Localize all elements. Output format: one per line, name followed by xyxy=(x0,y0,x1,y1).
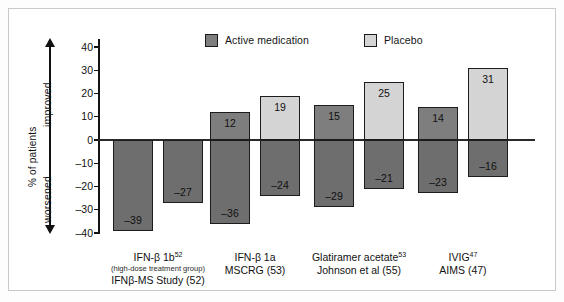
y-axis-tick-label-wrap: –30 xyxy=(53,204,93,214)
y-axis-tick-mark xyxy=(94,232,100,233)
bar-value-label: 19 xyxy=(261,102,299,113)
bar-value-label: –23 xyxy=(419,177,457,188)
bar-value-label: –16 xyxy=(469,161,507,172)
category-label-line1: IVIG47 xyxy=(383,251,543,264)
y-axis-tick-label: 0 xyxy=(63,135,93,145)
bar-value-label: 25 xyxy=(365,88,403,99)
bar-value-label: –29 xyxy=(315,191,353,202)
bar-improved: 12 xyxy=(210,112,250,140)
y-axis-tick-label: 40 xyxy=(63,42,93,52)
y-axis-tick-label: 30 xyxy=(63,65,93,75)
bar-improved: 19 xyxy=(260,96,300,140)
y-axis-tick-label-wrap: –20 xyxy=(53,181,93,191)
y-axis-tick-label: –40 xyxy=(63,228,93,238)
y-axis-tick-label-wrap: –40 xyxy=(53,228,93,238)
y-axis-tick-mark xyxy=(94,209,100,210)
bar-value-label: –27 xyxy=(164,187,202,198)
y-axis-tick-label-wrap: –10 xyxy=(53,158,93,168)
bar-improved: 25 xyxy=(364,82,404,140)
bar-worsened: –24 xyxy=(260,140,300,196)
figure-frame: Active medication Placebo improved worse… xyxy=(8,8,556,291)
category-label-line3: AIMS (47) xyxy=(383,264,543,277)
y-axis-tick-label: 10 xyxy=(63,111,93,121)
y-axis-tick-mark xyxy=(94,70,100,71)
bar-value-label: –24 xyxy=(261,180,299,191)
y-axis-tick-mark xyxy=(94,116,100,117)
bar-worsened: –16 xyxy=(468,140,508,177)
bar-value-label: 15 xyxy=(315,111,353,122)
bar-value-label: –36 xyxy=(211,208,249,219)
y-axis-tick-label-wrap: 20 xyxy=(53,88,93,98)
y-axis-tick-mark xyxy=(94,93,100,94)
bar-improved: 14 xyxy=(418,107,458,140)
y-axis-tick-mark xyxy=(94,163,100,164)
bar-value-label: –21 xyxy=(365,173,403,184)
y-axis-tick-label: –10 xyxy=(63,158,93,168)
bar-worsened: –39 xyxy=(113,140,153,231)
category-label-superscript: 47 xyxy=(470,251,478,258)
bar-value-label: 31 xyxy=(469,74,507,85)
bar-worsened: –27 xyxy=(163,140,203,203)
bar-improved: 31 xyxy=(468,68,508,140)
x-axis-category-label: IVIG47AIMS (47) xyxy=(383,251,543,277)
bar-value-label: 14 xyxy=(419,113,457,124)
axis-annotation-improved: improved xyxy=(41,82,53,127)
y-axis-tick-label-wrap: 10 xyxy=(53,111,93,121)
axis-annotation-worsened: worsened xyxy=(41,176,53,223)
bar-value-label: –39 xyxy=(114,215,152,226)
y-axis-tick-mark xyxy=(94,186,100,187)
bar-worsened: –23 xyxy=(418,140,458,193)
figure-container: Active medication Placebo improved worse… xyxy=(0,0,564,302)
plot-area: improved worsened % of patients 40302010… xyxy=(9,9,557,292)
bar-improved: 15 xyxy=(314,105,354,140)
y-axis-line xyxy=(98,39,100,233)
y-axis-title: % of patients xyxy=(27,127,38,187)
y-axis-tick-label: 20 xyxy=(63,88,93,98)
y-axis-tick-mark xyxy=(94,46,100,47)
y-axis-tick-label-wrap: 0 xyxy=(53,135,93,145)
y-axis-tick-label-wrap: 30 xyxy=(53,65,93,75)
y-axis-tick-label: –20 xyxy=(63,181,93,191)
bar-worsened: –36 xyxy=(210,140,250,224)
bar-value-label: 12 xyxy=(211,118,249,129)
bar-worsened: –21 xyxy=(364,140,404,189)
bar-worsened: –29 xyxy=(314,140,354,207)
y-axis-tick-label-wrap: 40 xyxy=(53,42,93,52)
y-axis-tick-label: –30 xyxy=(63,204,93,214)
